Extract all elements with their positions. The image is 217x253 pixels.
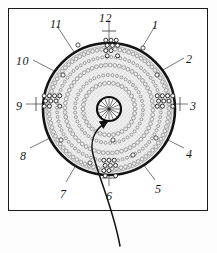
cluster-dot xyxy=(112,158,116,162)
cluster-dot xyxy=(102,169,106,173)
cluster-dot xyxy=(53,94,57,98)
scatter-dot xyxy=(155,73,159,77)
leader-10 xyxy=(33,60,56,72)
cluster-dot xyxy=(160,94,164,98)
cluster-dot xyxy=(110,43,114,47)
leader-2 xyxy=(163,58,184,70)
cluster-dot xyxy=(116,54,120,58)
cluster-dot xyxy=(104,49,108,53)
cluster-dot xyxy=(114,38,118,42)
hub-core xyxy=(107,107,111,111)
cluster-dot xyxy=(162,99,166,103)
label-11: 11 xyxy=(50,18,62,30)
cluster-dot xyxy=(155,94,159,98)
cluster-dot xyxy=(171,94,175,98)
cluster-dot xyxy=(42,104,46,108)
label-5: 5 xyxy=(155,183,161,195)
scatter-dot xyxy=(131,153,135,157)
cluster-dot xyxy=(114,163,118,167)
cross-section-svg xyxy=(0,0,217,253)
figure-canvas: 12 1 2 3 4 5 6 7 8 9 10 11 xyxy=(0,0,217,253)
cluster-dot xyxy=(107,158,111,162)
cluster-dot xyxy=(47,94,51,98)
cluster-dot xyxy=(114,174,118,178)
cluster-dot xyxy=(105,54,109,58)
scatter-dot xyxy=(141,46,145,50)
scatter-dot xyxy=(59,138,63,142)
cluster-dot xyxy=(109,38,113,42)
label-3: 3 xyxy=(190,100,196,112)
cluster-dot xyxy=(47,104,51,108)
cluster-dot xyxy=(58,104,62,108)
label-2: 2 xyxy=(186,53,192,65)
label-1: 1 xyxy=(152,19,158,31)
scatter-dot xyxy=(88,161,92,165)
cluster-dot xyxy=(58,94,62,98)
cluster-dot xyxy=(102,158,106,162)
figure-drawing xyxy=(0,0,217,253)
cluster-dot xyxy=(160,104,164,108)
cluster-dot xyxy=(167,99,171,103)
cluster-dot xyxy=(42,94,46,98)
cluster-dot xyxy=(105,43,109,47)
cluster-dot xyxy=(109,49,113,53)
cluster-dot xyxy=(107,169,111,173)
label-10: 10 xyxy=(16,55,29,67)
cluster-dot xyxy=(155,104,159,108)
scatter-dot xyxy=(111,138,115,142)
label-8: 8 xyxy=(20,150,26,162)
label-7: 7 xyxy=(60,188,66,200)
label-9: 9 xyxy=(16,100,22,112)
scatter-dot xyxy=(76,43,80,47)
cluster-dot xyxy=(103,174,107,178)
cluster-dot xyxy=(157,99,161,103)
cluster-dot xyxy=(171,104,175,108)
cluster-dot xyxy=(166,94,170,98)
cluster-dot xyxy=(54,99,58,103)
cluster-dot xyxy=(104,38,108,42)
scatter-dot xyxy=(61,73,65,77)
label-12: 12 xyxy=(99,12,112,24)
cluster-dot xyxy=(103,163,107,167)
label-4: 4 xyxy=(186,148,192,160)
scatter-dot xyxy=(154,136,158,140)
label-6: 6 xyxy=(106,190,112,202)
central-hub xyxy=(97,97,121,121)
cluster-dot xyxy=(108,163,112,167)
cluster-dot xyxy=(44,99,48,103)
cluster-dot xyxy=(49,99,53,103)
cluster-dot xyxy=(116,43,120,47)
